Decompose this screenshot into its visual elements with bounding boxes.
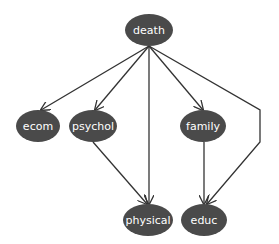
node-psychol[interactable] <box>69 110 117 142</box>
node-educ[interactable] <box>181 204 227 236</box>
node-physical[interactable] <box>123 204 173 236</box>
edge-death-family <box>149 46 203 110</box>
edge-death-ecom <box>41 46 149 110</box>
node-ecom[interactable] <box>16 110 60 142</box>
edge-death-psychol <box>95 46 149 110</box>
graph-canvas <box>0 0 279 244</box>
node-family[interactable] <box>180 110 226 142</box>
edge-psychol-physical <box>93 142 147 204</box>
node-death[interactable] <box>125 14 173 46</box>
